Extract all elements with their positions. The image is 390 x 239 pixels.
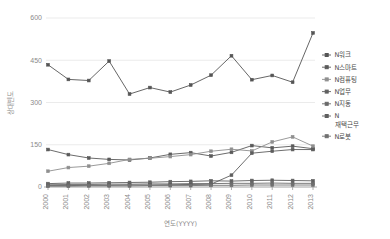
square-marker — [325, 115, 328, 118]
x-tick-label: 2012 — [287, 194, 294, 210]
data-point — [291, 184, 294, 187]
data-point — [230, 151, 233, 154]
data-point — [47, 148, 50, 151]
x-tick-label: 2003 — [103, 194, 110, 210]
data-point — [271, 146, 274, 149]
legend-item-N업무[interactable]: N업무 — [322, 88, 351, 96]
data-point — [291, 145, 294, 148]
x-tick-label: 2005 — [144, 194, 151, 210]
data-point — [250, 179, 253, 182]
legend-item-N워크[interactable]: N워크 — [322, 51, 351, 59]
x-tick-label: 2009 — [225, 194, 232, 210]
square-marker — [325, 78, 328, 81]
series-line-N워크 — [48, 33, 313, 94]
legend-item-N컴퓨팅[interactable]: N컴퓨팅 — [322, 75, 357, 84]
data-point — [210, 184, 213, 187]
data-point — [149, 184, 152, 187]
x-tick-label: 2010 — [246, 194, 253, 210]
data-point — [210, 150, 213, 153]
data-point — [169, 91, 172, 94]
data-point — [271, 141, 274, 144]
square-marker — [325, 135, 328, 138]
legend-label: N — [335, 112, 340, 120]
y-tick-label: 450 — [30, 57, 42, 64]
data-point — [312, 184, 315, 187]
data-point — [312, 148, 315, 151]
x-axis-title: 연도(YYYY) — [164, 220, 197, 228]
data-point — [250, 78, 253, 81]
legend-label: N업무 — [335, 88, 352, 96]
data-point — [230, 174, 233, 177]
y-tick-label: 0 — [38, 183, 42, 190]
x-tick-label: 2011 — [266, 194, 273, 209]
legend-item-N로봇[interactable]: N로봇 — [322, 133, 351, 141]
data-point — [128, 158, 131, 161]
data-point — [169, 184, 172, 187]
data-point — [67, 166, 70, 169]
square-marker — [325, 90, 328, 93]
data-point — [149, 157, 152, 160]
y-axis-title: 상대빈도 — [6, 91, 15, 115]
data-point — [47, 63, 50, 66]
legend-label: N스마트 — [335, 63, 358, 72]
legend-label: N컴퓨팅 — [335, 75, 358, 84]
data-point — [108, 162, 111, 165]
legend-item-N[interactable]: N재택근무 — [322, 112, 359, 128]
data-point — [189, 84, 192, 87]
y-tick-label: 150 — [30, 141, 42, 148]
data-point — [230, 184, 233, 187]
x-tick-label: 2013 — [307, 194, 314, 210]
data-point — [87, 79, 90, 82]
data-point — [67, 185, 70, 188]
x-tick-label: 2000 — [42, 194, 49, 210]
legend-label: N워크 — [335, 51, 352, 59]
y-tick-label: 300 — [30, 99, 42, 106]
legend-item-N지동[interactable]: N지동 — [322, 99, 351, 108]
data-point — [230, 148, 233, 151]
data-point — [210, 155, 213, 158]
data-point — [189, 153, 192, 156]
x-tick-label: 2006 — [164, 194, 171, 210]
data-point — [108, 158, 111, 161]
legend-item-N스마트[interactable]: N스마트 — [322, 63, 357, 72]
data-point — [87, 165, 90, 168]
data-point — [312, 145, 315, 148]
data-point — [210, 74, 213, 77]
data-point — [250, 184, 253, 187]
data-point — [271, 179, 274, 182]
data-point — [87, 184, 90, 187]
data-point — [87, 157, 90, 160]
data-point — [271, 74, 274, 77]
square-marker — [325, 54, 328, 57]
data-point — [271, 150, 274, 153]
legend-label: N지동 — [335, 99, 352, 108]
data-point — [47, 185, 50, 188]
data-point — [250, 152, 253, 155]
data-point — [291, 81, 294, 84]
x-tick-label: 2007 — [185, 194, 192, 210]
data-point — [108, 184, 111, 187]
data-point — [169, 155, 172, 158]
x-tick-label: 2001 — [62, 194, 69, 210]
data-point — [210, 179, 213, 182]
y-tick-label: 600 — [30, 14, 42, 21]
data-point — [189, 184, 192, 187]
data-point — [67, 78, 70, 81]
data-point — [271, 184, 274, 187]
x-tick-label: 2002 — [83, 194, 90, 210]
data-point — [67, 153, 70, 156]
data-point — [230, 54, 233, 57]
data-point — [291, 148, 294, 151]
x-tick-label: 2008 — [205, 194, 212, 210]
legend-label-cont: 재택근무 — [335, 120, 359, 129]
data-point — [250, 144, 253, 147]
square-marker — [325, 102, 328, 105]
data-point — [291, 179, 294, 182]
data-point — [128, 184, 131, 187]
data-point — [149, 86, 152, 89]
x-tick-label: 2004 — [124, 194, 131, 210]
chart-canvas: 0150300450600200020012002200320042005200… — [0, 0, 390, 239]
data-point — [47, 170, 50, 173]
square-marker — [325, 66, 328, 69]
data-point — [108, 60, 111, 63]
